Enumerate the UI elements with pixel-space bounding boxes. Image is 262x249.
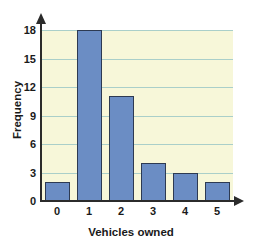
bar	[77, 30, 102, 201]
gridline	[41, 87, 233, 88]
x-axis-tick-labels: 012345	[41, 206, 233, 222]
gridline	[41, 116, 233, 117]
x-axis-title: Vehicles owned	[0, 226, 262, 238]
bar	[205, 182, 230, 201]
x-axis-line	[40, 200, 236, 202]
bar	[45, 182, 70, 201]
gridline	[41, 144, 233, 145]
x-tick-label: 1	[73, 206, 105, 217]
plot-area	[41, 30, 233, 201]
bar	[173, 173, 198, 202]
gridline	[41, 59, 233, 60]
x-tick-label: 2	[105, 206, 137, 217]
gridline	[41, 173, 233, 174]
gridline	[41, 30, 233, 31]
y-axis-line	[40, 22, 42, 202]
bar	[109, 96, 134, 201]
y-axis-title: Frequency	[11, 50, 23, 170]
x-tick-label: 3	[137, 206, 169, 217]
y-tick-label: 18	[2, 25, 36, 36]
y-tick-label: 0	[2, 196, 36, 207]
bar-chart: 0369121518 012345 Vehicles owned Frequen…	[0, 0, 262, 249]
bar	[141, 163, 166, 201]
x-axis-arrow-icon	[234, 196, 244, 206]
x-tick-label: 5	[201, 206, 233, 217]
x-tick-label: 0	[41, 206, 73, 217]
x-tick-label: 4	[169, 206, 201, 217]
y-axis-arrow-icon	[36, 13, 46, 24]
